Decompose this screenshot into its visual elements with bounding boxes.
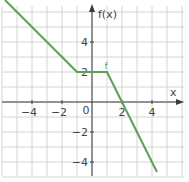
x-axis-arrow-icon <box>176 99 184 105</box>
x-axis-label: x <box>170 86 177 99</box>
function-label: f <box>104 61 108 71</box>
function-curve <box>5 0 157 172</box>
y-axis-label: f(x) <box>98 8 117 21</box>
x-tick-label: −2 <box>51 106 67 119</box>
grid <box>2 6 184 177</box>
y-tick-label: 4 <box>81 36 88 49</box>
function-graph: −4−2240−4−224xf(x)f <box>0 0 189 182</box>
x-tick-label: −4 <box>21 106 37 119</box>
x-tick-label: 4 <box>149 106 156 119</box>
y-axis-arrow-icon <box>89 4 95 12</box>
y-tick-label: −2 <box>72 126 88 139</box>
origin-label: 0 <box>83 104 90 117</box>
y-tick-label: −4 <box>72 156 88 169</box>
